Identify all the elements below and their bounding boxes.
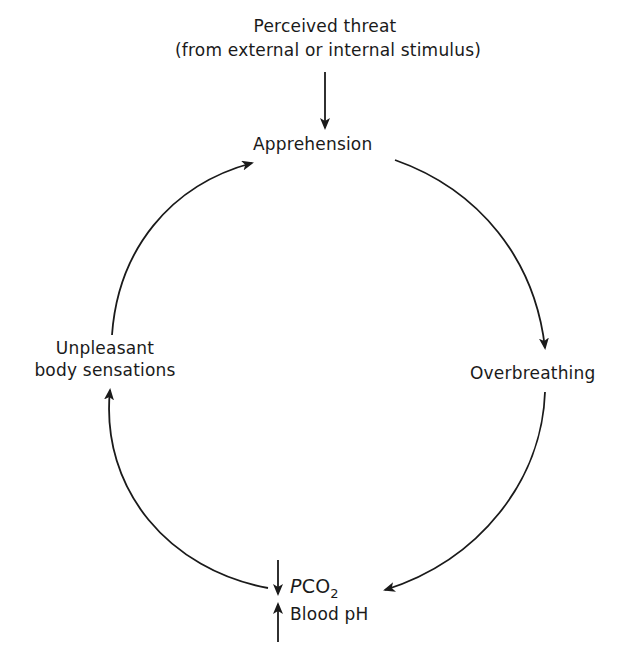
pco2-p: P xyxy=(290,575,302,597)
cycle-diagram xyxy=(0,0,635,665)
pco2-label: PCO2 xyxy=(290,576,339,599)
pco2-co: CO xyxy=(302,575,331,597)
perceived-threat-label: Perceived threat (from external or inter… xyxy=(175,16,475,60)
apprehension-label: Apprehension xyxy=(253,134,372,154)
pco2-sub: 2 xyxy=(330,586,338,601)
arrow-overbreathing-to-pco2 xyxy=(385,392,545,590)
perceived-threat-line1: Perceived threat xyxy=(175,16,475,36)
blood-ph-label: Blood pH xyxy=(290,604,369,624)
unpleasant-line1: Unpleasant xyxy=(10,338,200,358)
arrow-apprehension-to-overbreathing xyxy=(395,160,545,348)
overbreathing-label: Overbreathing xyxy=(470,363,596,383)
arrow-unpleasant-to-apprehension xyxy=(112,163,252,335)
unpleasant-line2: body sensations xyxy=(10,360,200,380)
perceived-threat-line2: (from external or internal stimulus) xyxy=(175,40,475,60)
unpleasant-body-sensations-label: Unpleasant body sensations xyxy=(10,338,200,380)
arrow-pco2-to-unpleasant xyxy=(109,390,268,588)
